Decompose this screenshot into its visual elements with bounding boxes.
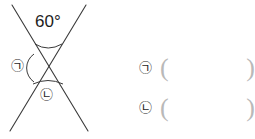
angle-label-60-degrees: 60° bbox=[35, 12, 61, 32]
answer-input-a[interactable] bbox=[169, 59, 247, 77]
answer-row: ㉡ ( ) bbox=[136, 95, 255, 121]
arc-left-angle bbox=[27, 54, 34, 82]
answer-label-a: ㉠ bbox=[136, 59, 154, 77]
paren-close-icon: ) bbox=[246, 95, 255, 121]
answer-label-b: ㉡ bbox=[136, 99, 154, 117]
answer-input-b[interactable] bbox=[169, 99, 247, 117]
angle-marker-b: ㉡ bbox=[38, 86, 55, 103]
arc-bottom-angle bbox=[33, 81, 63, 85]
answer-blanks: ㉠ ( ) ㉡ ( ) bbox=[128, 0, 255, 139]
worksheet-canvas: 60° ㉠ ㉡ ㉠ ( ) ㉡ ( ) bbox=[0, 0, 255, 139]
geometry-figure: 60° ㉠ ㉡ bbox=[0, 0, 128, 139]
paren-open-icon: ( bbox=[160, 55, 169, 81]
paren-open-icon: ( bbox=[160, 95, 169, 121]
answer-row: ㉠ ( ) bbox=[136, 55, 255, 81]
arc-top-60deg bbox=[35, 44, 62, 48]
paren-close-icon: ) bbox=[246, 55, 255, 81]
angle-marker-a: ㉠ bbox=[9, 57, 26, 74]
